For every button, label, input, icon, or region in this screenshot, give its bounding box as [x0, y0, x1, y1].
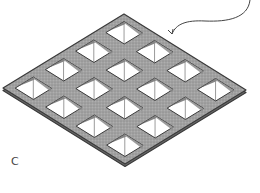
leader-arrow: [168, 0, 250, 34]
figure-label: C: [11, 155, 19, 168]
lattice-figure: [0, 0, 260, 193]
lattice-grid: [3, 14, 246, 167]
arrowhead-icon: [168, 29, 173, 34]
leader-line: [172, 0, 250, 34]
